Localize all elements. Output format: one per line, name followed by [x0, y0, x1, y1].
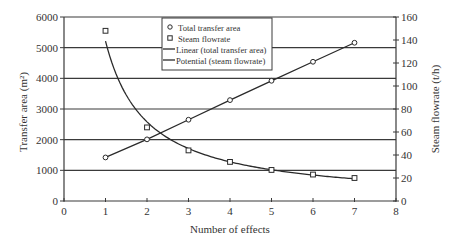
x-tick-label: 8 [393, 205, 399, 217]
y2-tick-label: 20 [401, 172, 413, 184]
legend-circle-icon [168, 25, 172, 29]
area-point-marker [186, 117, 191, 122]
y2-axis-label: Steam flowrate (t/h) [429, 64, 442, 153]
y-tick-label: 6000 [36, 11, 59, 23]
y2-tick-label: 120 [401, 57, 418, 69]
area-point-marker [145, 137, 150, 142]
y2-tick-label: 0 [401, 195, 407, 207]
steam-point-marker [352, 176, 357, 181]
steam-point-marker [145, 125, 150, 130]
y2-tick-label: 100 [401, 80, 418, 92]
area-point-marker [103, 155, 108, 160]
legend-label: Potential (steam flowrate) [176, 56, 265, 66]
y2-tick-label: 140 [401, 34, 418, 46]
steam-point-marker [103, 28, 108, 33]
y-tick-label: 0 [53, 195, 59, 207]
steam-point-marker [269, 168, 274, 173]
y-tick-label: 1000 [36, 164, 59, 176]
area-point-marker [311, 59, 316, 64]
y2-tick-label: 60 [401, 126, 413, 138]
area-point-marker [352, 40, 357, 45]
steam-point-marker [311, 172, 316, 177]
legend-square-icon [168, 36, 172, 40]
legend: Total transfer areaSteam flowrateLinear … [162, 18, 272, 70]
legend-label: Total transfer area [178, 23, 241, 33]
y2-tick-label: 40 [401, 149, 413, 161]
x-axis-label: Number of effects [190, 223, 270, 235]
y2-tick-label: 160 [401, 11, 418, 23]
steam-point-marker [228, 160, 233, 165]
x-tick-label: 0 [61, 205, 67, 217]
x-tick-label: 6 [310, 205, 316, 217]
x-tick-label: 5 [269, 205, 275, 217]
x-tick-label: 1 [103, 205, 109, 217]
y-axis-label: Transfer area (m²) [17, 72, 30, 152]
y-tick-label: 4000 [36, 72, 59, 84]
y-tick-label: 2000 [36, 134, 59, 146]
x-tick-label: 3 [186, 205, 192, 217]
chart-container: 0100020003000400050006000020406080100120… [0, 0, 451, 239]
legend-label: Linear (total transfer area) [176, 45, 267, 55]
y-tick-label: 5000 [36, 42, 59, 54]
y2-tick-label: 80 [401, 103, 413, 115]
area-point-marker [269, 78, 274, 83]
x-tick-label: 4 [227, 205, 233, 217]
legend-label: Steam flowrate [178, 34, 230, 44]
x-tick-label: 2 [144, 205, 150, 217]
y-tick-label: 3000 [36, 103, 59, 115]
area-point-marker [228, 98, 233, 103]
chart-svg: 0100020003000400050006000020406080100120… [0, 0, 451, 239]
steam-point-marker [186, 148, 191, 153]
x-tick-label: 7 [352, 205, 358, 217]
